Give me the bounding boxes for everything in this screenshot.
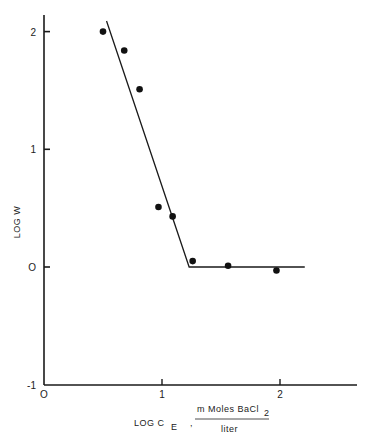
x-axis-label: LOG C E , m Moles BaCl 2 liter xyxy=(134,404,270,434)
data-point xyxy=(273,267,280,274)
x-tick-label: O xyxy=(40,389,48,400)
y-tick-label: 1 xyxy=(30,144,36,155)
data-point xyxy=(136,86,143,93)
data-point xyxy=(189,258,196,265)
svg-text:m Moles BaCl: m Moles BaCl xyxy=(197,404,259,414)
svg-text:,: , xyxy=(190,418,193,428)
fitted-line xyxy=(107,21,305,267)
x-tick-label: 1 xyxy=(159,389,165,400)
axes xyxy=(44,15,357,385)
svg-text:LOG C: LOG C xyxy=(134,418,165,428)
svg-text:liter: liter xyxy=(221,424,238,434)
chart: -1O12 O12 LOG W LOG C E , m Moles BaCl 2… xyxy=(0,0,369,445)
svg-text:E: E xyxy=(171,422,178,432)
y-ticks: -1O12 xyxy=(27,27,50,391)
svg-text:2: 2 xyxy=(264,408,270,418)
data-point xyxy=(169,213,176,220)
y-tick-label: O xyxy=(28,262,36,273)
x-tick-label: 2 xyxy=(277,389,283,400)
y-tick-label: 2 xyxy=(30,27,36,38)
y-tick-label: -1 xyxy=(27,380,36,391)
data-point xyxy=(155,204,162,211)
x-ticks: O12 xyxy=(40,379,283,400)
data-point xyxy=(121,47,128,54)
y-axis-label: LOG W xyxy=(12,206,22,239)
data-point xyxy=(225,263,232,270)
data-points xyxy=(100,28,280,274)
data-point xyxy=(100,28,107,35)
